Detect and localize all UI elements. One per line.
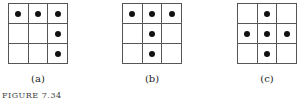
dot-icon xyxy=(149,51,155,57)
dot-icon xyxy=(264,11,270,17)
grid-cell xyxy=(29,44,49,64)
dot-icon xyxy=(15,11,21,17)
dot-icon xyxy=(35,11,41,17)
grid-cell xyxy=(258,24,278,44)
grid-cell xyxy=(29,4,49,24)
grid-cell xyxy=(29,24,49,44)
grid-c xyxy=(237,3,297,64)
grid-cell xyxy=(9,4,29,24)
grid-b xyxy=(122,3,182,64)
grid-cell xyxy=(143,4,163,24)
dot-icon xyxy=(55,31,61,37)
grid-cell xyxy=(123,44,143,64)
grid-cell xyxy=(48,44,68,64)
grid-cell xyxy=(143,24,163,44)
dot-icon xyxy=(149,11,155,17)
grid-cell xyxy=(143,44,163,64)
dot-icon xyxy=(129,11,135,17)
grid-cell xyxy=(277,4,297,24)
grid-a xyxy=(8,3,68,64)
panel-label-c: (c) xyxy=(237,73,297,84)
grid-cell xyxy=(238,4,258,24)
dot-icon xyxy=(55,51,61,57)
dot-icon xyxy=(169,11,175,17)
dot-icon xyxy=(55,11,61,17)
grid-cell xyxy=(9,24,29,44)
grid-cell xyxy=(123,4,143,24)
grid-cell xyxy=(162,4,182,24)
grid-cell xyxy=(238,24,258,44)
dot-icon xyxy=(149,31,155,37)
grid-cell xyxy=(48,24,68,44)
grid-cell xyxy=(238,44,258,64)
grid-cell xyxy=(48,4,68,24)
figure-caption: FIGURE 7.34 xyxy=(2,91,62,100)
grid-cell xyxy=(162,44,182,64)
dot-icon xyxy=(264,51,270,57)
grid-cell xyxy=(277,44,297,64)
grid-cell xyxy=(123,24,143,44)
panel-label-a: (a) xyxy=(8,73,68,84)
grid-cell xyxy=(258,44,278,64)
grid-cell xyxy=(277,24,297,44)
dot-icon xyxy=(264,31,270,37)
grid-cell xyxy=(162,24,182,44)
dot-icon xyxy=(244,31,250,37)
grid-cell xyxy=(9,44,29,64)
dot-icon xyxy=(284,31,290,37)
panel-label-b: (b) xyxy=(122,73,182,84)
grid-cell xyxy=(258,4,278,24)
